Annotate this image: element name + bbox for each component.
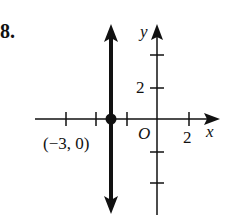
y-tick-label-2: 2 <box>136 78 145 98</box>
y-axis-label: y <box>140 22 148 42</box>
origin-label: O <box>138 124 150 144</box>
x-tick-label-2: 2 <box>183 128 192 148</box>
coordinate-graph <box>0 0 237 224</box>
point-marker <box>106 114 117 125</box>
point-label: (−3, 0) <box>43 134 89 154</box>
x-axis-label: x <box>206 122 214 142</box>
